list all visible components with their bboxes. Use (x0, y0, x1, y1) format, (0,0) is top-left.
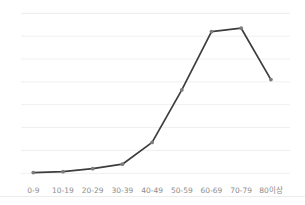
x-axis-label: 0-9 (27, 186, 39, 195)
x-axis-label: 10-19 (52, 186, 74, 195)
chart-container: 0-910-1920-2930-3940-4950-5960-6970-7980… (0, 0, 305, 205)
data-point-0 (31, 171, 35, 175)
x-axis-label: 50-59 (171, 186, 193, 195)
data-point-1 (61, 170, 65, 174)
x-axis-label: 40-49 (141, 186, 163, 195)
age-distribution-line-chart: 0-910-1920-2930-3940-4950-5960-6970-7980… (0, 0, 305, 205)
x-axis-label: 60-69 (201, 186, 223, 195)
data-point-5 (180, 88, 184, 92)
data-point-4 (150, 141, 154, 145)
x-axis-label: 20-29 (82, 186, 104, 195)
x-axis-label: 30-39 (112, 186, 134, 195)
gridlines (21, 13, 290, 173)
data-points (31, 26, 272, 174)
data-point-3 (121, 162, 125, 166)
x-axis-labels: 0-910-1920-2930-3940-4950-5960-6970-7980… (27, 185, 282, 195)
x-axis-label: 80이상 (259, 185, 283, 195)
data-point-8 (269, 78, 273, 82)
data-point-2 (91, 167, 95, 171)
data-point-6 (210, 30, 214, 34)
x-axis-label: 70-79 (230, 186, 252, 195)
data-point-7 (239, 26, 243, 30)
